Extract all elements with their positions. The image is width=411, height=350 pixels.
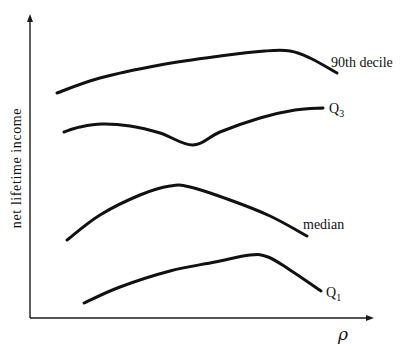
y-axis-arrow-icon	[27, 14, 33, 22]
curve-q1	[84, 255, 321, 303]
label-q3: Q3	[329, 101, 344, 119]
label-90th-decile: 90th decile	[331, 55, 393, 70]
x-axis-arrow-icon	[366, 315, 374, 321]
curve-median	[67, 185, 307, 240]
label-q1-main: Q	[326, 285, 336, 300]
label-q3-main: Q	[329, 101, 339, 116]
x-axis-label: ρ	[337, 324, 348, 344]
y-axis-label: net lifetime income	[9, 108, 24, 228]
curves	[57, 50, 337, 303]
label-q1-subscript: 1	[336, 292, 341, 303]
curve-q3	[64, 108, 323, 145]
label-q3-subscript: 3	[339, 108, 344, 119]
curve-90th-decile	[57, 50, 337, 93]
label-median: median	[303, 217, 344, 232]
chart: net lifetime income ρ 90th decile Q3 med…	[0, 0, 411, 350]
label-q1: Q1	[326, 285, 341, 303]
